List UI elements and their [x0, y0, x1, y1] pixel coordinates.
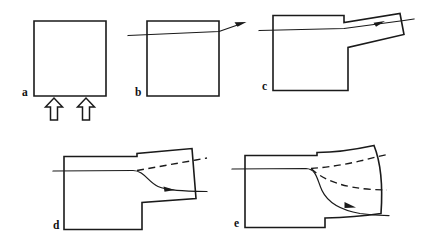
panel-d-block-outline [64, 149, 196, 230]
figure-container: a b c d [0, 0, 430, 242]
panel-e-flow-arrowhead-icon [345, 202, 357, 208]
diagram-canvas: a b c d [0, 0, 430, 242]
panel-label-a: a [22, 86, 28, 98]
panel-a: a [22, 21, 106, 120]
panel-c-block-outline [273, 14, 404, 91]
panel-a-block-outline [34, 21, 106, 96]
panel-b: b [128, 21, 247, 98]
panel-e: e [232, 146, 390, 229]
panel-d: d [53, 149, 207, 231]
panel-e-flow-line [232, 169, 389, 216]
load-arrow-right-icon [78, 98, 95, 120]
panel-e-dashed-reference-line-lower [311, 169, 387, 191]
panel-d-flow-line [53, 171, 207, 192]
panel-b-flow-line [128, 25, 239, 36]
panel-d-flow-arrowhead-icon [164, 187, 176, 192]
panel-c: c [259, 14, 414, 92]
panel-label-c: c [262, 80, 267, 92]
panel-c-flow-arrowhead-icon [374, 21, 386, 27]
panel-label-d: d [53, 219, 60, 231]
panel-c-flow-line [259, 19, 414, 31]
panel-label-b: b [135, 86, 141, 98]
load-arrow-left-icon [46, 98, 63, 120]
panel-d-dashed-reference-line [137, 158, 207, 171]
panel-e-block-outline [245, 146, 382, 228]
panel-label-e: e [234, 217, 239, 229]
